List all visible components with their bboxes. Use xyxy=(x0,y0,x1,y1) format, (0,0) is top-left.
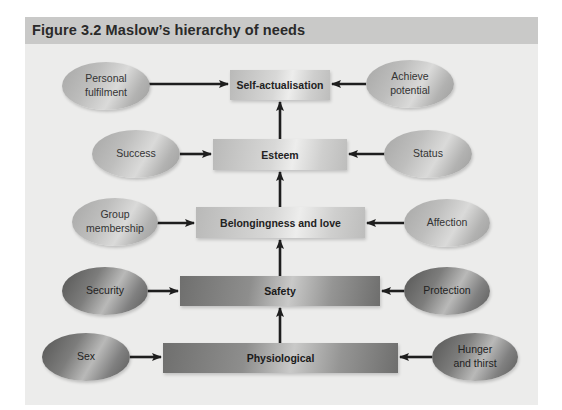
need-label-line: fulfilment xyxy=(85,86,127,98)
need-sex: Sex xyxy=(42,333,130,381)
level-esteem: Esteem xyxy=(213,139,347,170)
need-label-line: potential xyxy=(390,84,430,96)
level-physiological: Physiological xyxy=(163,343,398,373)
need-label-line: Affection xyxy=(427,216,468,230)
need-label-line: Success xyxy=(116,147,156,161)
need-hunger-and-thirst: Hungerand thirst xyxy=(432,333,518,381)
need-protection: Protection xyxy=(404,267,490,315)
level-label: Physiological xyxy=(247,352,315,364)
need-label-line: Status xyxy=(413,147,443,161)
need-label-line: and thirst xyxy=(453,357,496,369)
level-label: Esteem xyxy=(261,149,298,161)
need-label-line: Group xyxy=(100,208,129,220)
need-label-line: Sex xyxy=(77,350,95,364)
need-achieve-potential: Achievepotential xyxy=(366,60,454,108)
need-label-line: Achieve xyxy=(391,70,428,82)
need-label-line: Personal xyxy=(85,72,126,84)
need-group-membership: Groupmembership xyxy=(72,198,158,246)
need-affection: Affection xyxy=(404,199,490,247)
level-safety: Safety xyxy=(180,276,380,306)
need-success: Success xyxy=(92,130,180,178)
need-label-line: Security xyxy=(86,284,124,298)
need-label-line: Hunger xyxy=(458,343,492,355)
level-label: Self-actualisation xyxy=(237,79,324,91)
level-label: Safety xyxy=(264,285,296,297)
need-label-line: membership xyxy=(86,222,144,234)
need-status: Status xyxy=(384,130,472,178)
need-personal-fulfilment: Personalfulfilment xyxy=(62,62,150,110)
level-label: Belongingness and love xyxy=(220,217,341,229)
level-self-actualisation: Self-actualisation xyxy=(230,70,330,100)
level-belongingness: Belongingness and love xyxy=(196,207,365,238)
need-label-line: Protection xyxy=(423,284,470,298)
need-security: Security xyxy=(62,267,148,315)
